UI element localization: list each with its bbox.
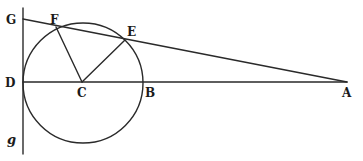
label-g-upper: G xyxy=(6,13,16,27)
label-e: E xyxy=(127,25,136,39)
label-d: D xyxy=(5,76,15,90)
radius-cf xyxy=(56,27,82,82)
secant-line-ga xyxy=(23,19,347,82)
radius-ce xyxy=(82,40,125,82)
label-g-lower: g xyxy=(7,132,16,147)
label-b: B xyxy=(145,86,155,100)
geometry-diagram: G F E D C B A g xyxy=(0,0,363,161)
label-a: A xyxy=(341,86,352,100)
circle-center-c xyxy=(23,23,143,143)
label-f: F xyxy=(50,13,59,27)
label-c: C xyxy=(77,86,87,100)
